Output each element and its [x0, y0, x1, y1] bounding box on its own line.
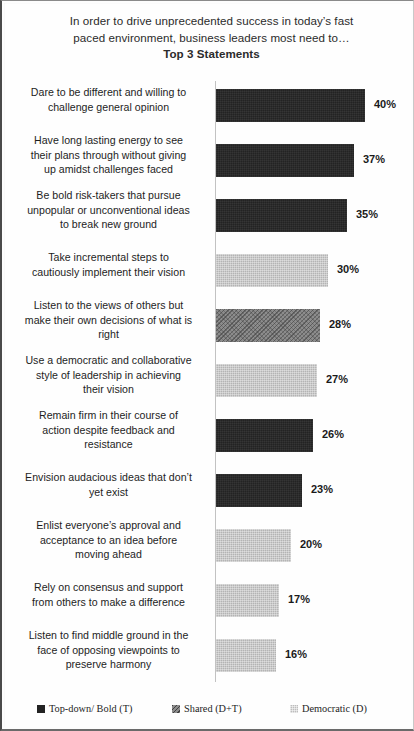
bar-category-label-line: action despite feedback and [8, 423, 209, 438]
bar-d[interactable] [216, 529, 291, 562]
legend-label-democratic: Democratic (D) [302, 703, 367, 714]
bar-value-label: 30% [337, 263, 359, 275]
bar-value-label: 26% [322, 428, 344, 440]
legend-swatch-democratic-icon [290, 705, 298, 713]
bar-category-label-line: Dare to be different and willing to [8, 85, 209, 100]
bar-category-label-line: their vision [8, 382, 209, 397]
bar-value-label: 40% [374, 98, 396, 110]
bar-row: Envision audacious ideas that don’tyet e… [4, 474, 411, 507]
bar-row: Enlist everyone’s approval andacceptance… [4, 529, 411, 562]
chart-legend: Top-down/ Bold (T) Shared (D+T) Democrat… [4, 703, 411, 717]
bar-category-label-line: resistance [8, 437, 209, 452]
legend-label-top-down: Top-down/ Bold (T) [49, 703, 132, 714]
chart-title-line-1: In order to drive unprecedented success … [34, 13, 389, 30]
bar-row: Listen to the views of others butmake th… [4, 309, 411, 342]
bar-value-label: 17% [288, 593, 310, 605]
bar-category-label-line: Listen to the views of others but [8, 298, 209, 313]
bar-category-label-line: their plans through without giving [8, 148, 209, 163]
bar-dt[interactable] [216, 309, 320, 342]
bar-value-label: 20% [300, 538, 322, 550]
bar-t[interactable] [216, 89, 365, 122]
bar-category-label-line: Have long lasting energy to see [8, 133, 209, 148]
bar-category-label: Remain firm in their course ofaction des… [8, 408, 209, 452]
bar-category-label-line: Use a democratic and collaborative [8, 353, 209, 368]
legend-item-top-down: Top-down/ Bold (T) [37, 703, 132, 714]
bar-category-label-line: right [8, 327, 209, 342]
bar-category-label-line: yet exist [8, 485, 209, 500]
bar-category-label: Rely on consensus and supportfrom others… [8, 580, 209, 609]
bar-category-label-line: Take incremental steps to [8, 250, 209, 265]
bar-row: Listen to find middle ground in theface … [4, 639, 411, 672]
bar-category-label: Envision audacious ideas that don’tyet e… [8, 470, 209, 499]
bar-category-label-line: moving ahead [8, 547, 209, 562]
bar-category-label-line: Rely on consensus and support [8, 580, 209, 595]
bar-row: Dare to be different and willing tochall… [4, 89, 411, 122]
bar-category-label-line: face of opposing viewpoints to [8, 643, 209, 658]
bar-category-label: Be bold risk-takers that pursueunpopular… [8, 188, 209, 232]
legend-item-shared: Shared (D+T) [172, 703, 242, 714]
bar-category-label-line: make their own decisions of what is [8, 313, 209, 328]
bar-value-label: 28% [329, 318, 351, 330]
chart-title: In order to drive unprecedented success … [34, 13, 389, 63]
plot-area: Dare to be different and willing tochall… [4, 81, 411, 686]
bar-t[interactable] [216, 474, 302, 507]
chart-title-line-3: Top 3 Statements [34, 46, 389, 63]
bar-category-label-line: Remain firm in their course of [8, 408, 209, 423]
bar-category-label-line: Enlist everyone’s approval and [8, 518, 209, 533]
bar-chart: In order to drive unprecedented success … [4, 3, 411, 727]
bar-d[interactable] [216, 254, 328, 287]
bar-t[interactable] [216, 199, 347, 232]
bar-category-label-line: cautiously implement their vision [8, 265, 209, 280]
bar-category-label: Listen to find middle ground in theface … [8, 628, 209, 672]
bar-category-label: Dare to be different and willing tochall… [8, 85, 209, 114]
bar-category-label: Listen to the views of others butmake th… [8, 298, 209, 342]
bar-category-label: Enlist everyone’s approval andacceptance… [8, 518, 209, 562]
bar-d[interactable] [216, 364, 317, 397]
bar-category-label-line: Envision audacious ideas that don’t [8, 470, 209, 485]
bar-d[interactable] [216, 639, 276, 672]
bar-value-label: 35% [356, 208, 378, 220]
bar-category-label-line: style of leadership in achieving [8, 368, 209, 383]
bar-t[interactable] [216, 419, 313, 452]
bar-category-label-line: from others to make a difference [8, 595, 209, 610]
bar-value-label: 23% [311, 483, 333, 495]
legend-swatch-top-down-icon [37, 705, 45, 713]
bar-category-label: Take incremental steps tocautiously impl… [8, 250, 209, 279]
bar-t[interactable] [216, 144, 354, 177]
bar-category-label-line: to break new ground [8, 217, 209, 232]
bar-row: Take incremental steps tocautiously impl… [4, 254, 411, 287]
bar-value-label: 27% [326, 373, 348, 385]
bar-category-label: Use a democratic and collaborativestyle … [8, 353, 209, 397]
legend-item-democratic: Democratic (D) [290, 703, 367, 714]
bar-row: Use a democratic and collaborativestyle … [4, 364, 411, 397]
bar-category-label-line: unpopular or unconventional ideas [8, 203, 209, 218]
chart-frame: In order to drive unprecedented success … [0, 0, 414, 731]
bar-row: Have long lasting energy to seetheir pla… [4, 144, 411, 177]
bar-category-label-line: challenge general opinion [8, 100, 209, 115]
chart-title-line-2: paced environment, business leaders most… [34, 30, 389, 47]
bar-value-label: 16% [285, 648, 307, 660]
legend-swatch-shared-icon [172, 705, 180, 713]
bar-category-label-line: acceptance to an idea before [8, 533, 209, 548]
bar-category-label-line: Be bold risk-takers that pursue [8, 188, 209, 203]
bar-d[interactable] [216, 584, 279, 617]
bar-category-label-line: preserve harmony [8, 657, 209, 672]
bar-row: Be bold risk-takers that pursueunpopular… [4, 199, 411, 232]
bar-row: Rely on consensus and supportfrom others… [4, 584, 411, 617]
bar-category-label-line: Listen to find middle ground in the [8, 628, 209, 643]
bar-category-label: Have long lasting energy to seetheir pla… [8, 133, 209, 177]
bar-row: Remain firm in their course ofaction des… [4, 419, 411, 452]
bar-category-label-line: up amidst challenges faced [8, 162, 209, 177]
legend-label-shared: Shared (D+T) [184, 703, 242, 714]
bar-value-label: 37% [363, 153, 385, 165]
